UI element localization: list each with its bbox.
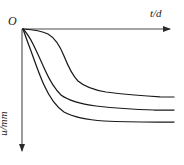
origin-label: O [8, 15, 17, 27]
curve-upper [23, 29, 174, 97]
curve-middle [23, 29, 174, 110]
y-axis-label: u/mm [0, 111, 9, 135]
curve-lower [23, 29, 174, 122]
x-axis-label: t/d [150, 8, 162, 19]
settlement-time-figure: O t/d u/mm [0, 0, 184, 165]
chart-canvas [0, 0, 184, 165]
curves-group [23, 29, 174, 122]
